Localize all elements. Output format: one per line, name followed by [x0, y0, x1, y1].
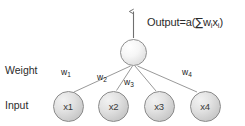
formula-weight-symbol: w: [203, 16, 211, 28]
weight-label-w2: w2: [97, 72, 107, 82]
input-node-label: x4: [200, 101, 210, 112]
weight-subscript: 1: [67, 71, 71, 78]
input-node-x4: x4: [190, 91, 221, 122]
neural-network-diagram: Weight Input Output=a(∑wixi) w1 w2 w3 w4…: [0, 0, 245, 126]
weight-label-w4: w4: [182, 67, 192, 77]
weight-subscript: 3: [130, 81, 134, 88]
output-formula: Output=a(∑wixi): [147, 15, 223, 29]
input-row-label: Input: [5, 99, 28, 111]
weight-subscript: 4: [188, 71, 192, 78]
formula-prefix: Output=a(: [147, 16, 195, 28]
weight-subscript: 2: [103, 76, 107, 83]
input-node-x1: x1: [53, 91, 84, 122]
weight-label-w3: w3: [124, 77, 134, 87]
edge-group: [74, 66, 197, 92]
weight-label-w1: w1: [61, 67, 71, 77]
output-neuron-node: [120, 39, 147, 66]
formula-suffix: ): [219, 16, 223, 28]
input-node-x2: x2: [98, 91, 129, 122]
input-node-label: x2: [109, 101, 119, 112]
input-node-x3: x3: [144, 91, 175, 122]
summation-sigma-icon: ∑: [195, 15, 203, 29]
weight-row-label: Weight: [5, 64, 38, 76]
input-node-label: x3: [154, 101, 164, 112]
input-node-label: x1: [63, 101, 73, 112]
